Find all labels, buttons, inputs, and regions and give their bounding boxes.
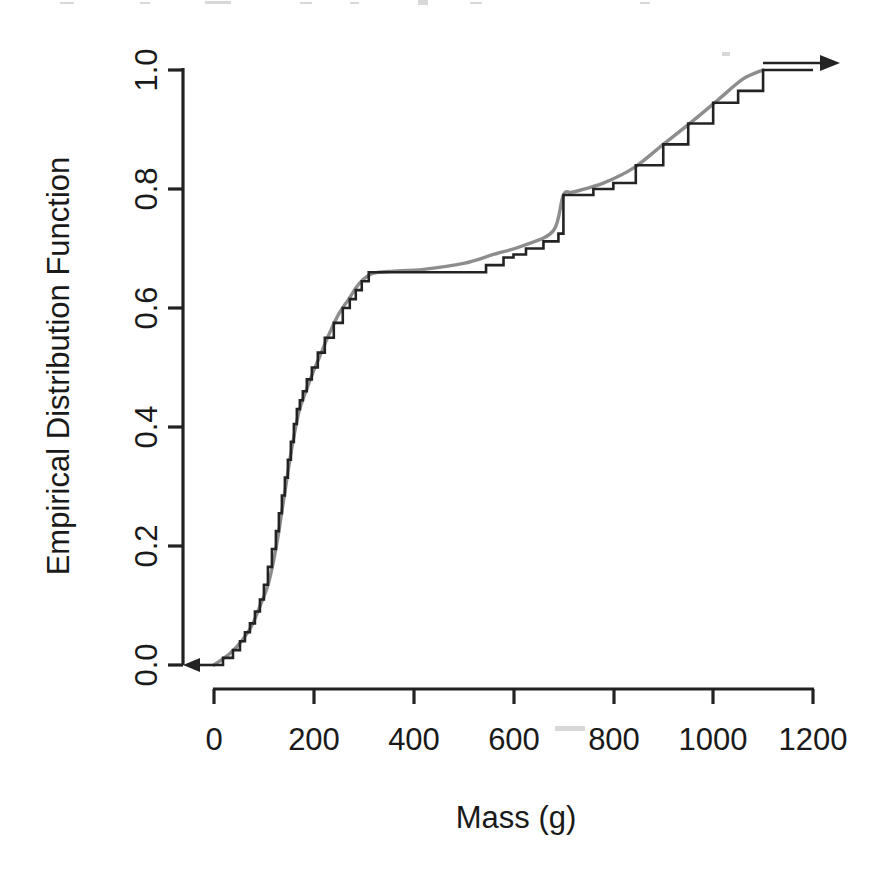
right-arrow-annotation (763, 55, 840, 71)
x-tick-label-400: 400 (388, 722, 440, 757)
plot-canvas: 1.0 0.8 0.6 0.4 0.2 0.0 Empirical Distri… (0, 0, 893, 878)
smoothed-distribution-curve (214, 70, 763, 665)
left-arrow-icon (183, 658, 200, 672)
x-tick-label-600: 600 (488, 722, 540, 757)
y-tick-label-0.0: 0.0 (129, 643, 164, 686)
y-tick-label-0.8: 0.8 (129, 167, 164, 210)
y-tick-label-0.4: 0.4 (129, 405, 164, 448)
x-tick-label-1200: 1200 (779, 722, 848, 757)
y-axis-label: Empirical Distribution Function (41, 157, 76, 576)
right-arrow-icon (820, 55, 840, 71)
x-axis-label: Mass (g) (456, 800, 577, 835)
x-axis: 0 200 400 600 800 1000 1200 Mass (g) (205, 689, 847, 835)
x-tick-label-1000: 1000 (679, 722, 748, 757)
y-tick-label-0.2: 0.2 (129, 524, 164, 567)
y-tick-label-1.0: 1.0 (129, 48, 164, 91)
empirical-step-function (214, 70, 813, 665)
ecdf-chart: 1.0 0.8 0.6 0.4 0.2 0.0 Empirical Distri… (0, 0, 893, 878)
x-tick-label-0: 0 (205, 722, 222, 757)
y-axis: 1.0 0.8 0.6 0.4 0.2 0.0 Empirical Distri… (41, 48, 184, 686)
left-arrow-annotation (183, 658, 214, 672)
y-tick-label-0.6: 0.6 (129, 286, 164, 329)
scan-artifacts (60, 0, 730, 731)
x-tick-label-200: 200 (288, 722, 340, 757)
x-tick-label-800: 800 (588, 722, 640, 757)
